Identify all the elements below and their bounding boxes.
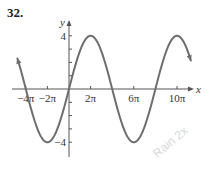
y-tick-label: 4	[61, 30, 67, 42]
curve-right-arrow-icon	[187, 55, 192, 62]
tick-labels: xy−4π−2π2π6π10π4−4	[17, 16, 201, 148]
x-tick-label: 6π	[128, 92, 140, 104]
x-tick-label: −2π	[39, 92, 57, 104]
x-tick-label: 10π	[169, 92, 186, 104]
y-axis-arrow-icon	[67, 20, 72, 26]
x-axis-arrow-icon	[188, 87, 194, 92]
y-axis-label: y	[59, 16, 65, 28]
x-tick-label: 2π	[85, 92, 97, 104]
y-tick-label: −4	[54, 136, 66, 148]
x-axis-label: x	[195, 83, 201, 95]
curve-left-arrow-icon	[16, 58, 21, 64]
sine-graph: xy−4π−2π2π6π10π4−4	[0, 0, 209, 184]
